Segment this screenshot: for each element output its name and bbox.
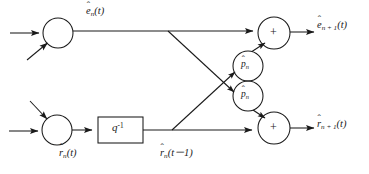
summer-bottom-left: [42, 115, 72, 145]
argument-backward-out: (t): [337, 118, 347, 129]
edge-input-forward-diagonal: [27, 43, 48, 60]
edge-cross-forward-to-lower-gain: [168, 31, 234, 92]
edge-cross-backward-to-upper-gain: [172, 72, 235, 130]
argument-backward-in: (t): [67, 147, 77, 158]
label-backward-error-input: ˆrn(t): [59, 148, 77, 159]
edge-input-backward-diagonal: [30, 101, 47, 119]
subscript-backward-in: n: [63, 152, 67, 160]
hat-accent-forward-out: ˆ: [318, 15, 321, 25]
label-summer-top-right-plus: +: [270, 26, 277, 38]
label-gain-upper-rho: ˆpn: [241, 60, 249, 70]
subscript-gain-upper: n: [246, 63, 249, 70]
subscript-forward-out: n + 1: [322, 24, 338, 32]
hat-accent-gain-lower: ˆ: [242, 85, 245, 94]
label-forward-error-output: ˆen + 1(t): [317, 20, 347, 31]
argument-delayed: (t－1): [168, 147, 193, 158]
label-delayed-backward-error: ˆrn(t－1): [160, 148, 193, 159]
subscript-backward-out: n + 1: [321, 123, 337, 131]
subscript-forward-in: n: [91, 10, 95, 18]
hat-accent-forward-in: ˆ: [87, 1, 90, 11]
signal-flow-diagram: ˆen(t) ˆrn(t) ˆrn(t－1) ˆen + 1(t) ˆrn + …: [0, 0, 369, 174]
argument-forward-in: (t): [94, 5, 104, 16]
hat-accent-gain-upper: ˆ: [242, 55, 245, 64]
subscript-gain-lower: n: [246, 93, 249, 100]
delay-base-symbol: q: [112, 121, 118, 133]
label-forward-error-input: ˆen(t): [86, 6, 104, 17]
label-summer-bottom-right-plus: +: [270, 121, 277, 133]
argument-forward-out: (t): [337, 19, 347, 30]
label-backward-error-output: ˆrn + 1(t): [317, 119, 347, 130]
delay-exponent: -1: [118, 122, 124, 130]
label-delay-operator: q-1: [112, 122, 124, 133]
label-gain-lower-rho: ˆpn: [241, 90, 249, 100]
subscript-delayed: n: [164, 152, 168, 160]
